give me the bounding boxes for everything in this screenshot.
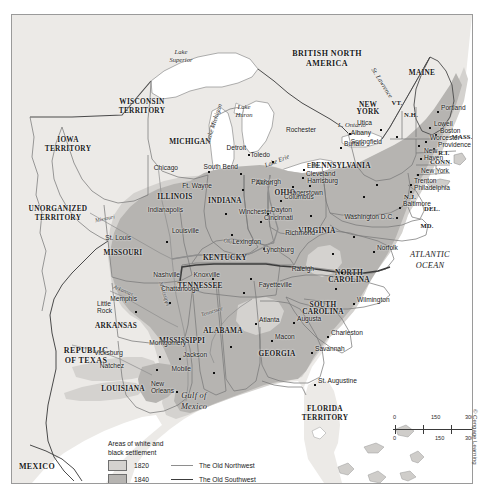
legend-label-old-southwest: The Old Southwest [199, 476, 256, 483]
state-label-louisiana: LOUISIANA [101, 385, 145, 392]
city-label-portland: Portland [441, 105, 466, 112]
city-marker-philadelphia [410, 191, 412, 193]
territory-label-wisconsin-territory: WISCONSINTERRITORY [119, 97, 166, 115]
copyright-credit: © Cengage Learning [472, 409, 478, 464]
city-marker-portland [437, 111, 439, 113]
scale-axis-line [393, 429, 473, 430]
city-label-chicago: Chicago [154, 165, 178, 172]
city-marker-lynchburg [332, 253, 334, 255]
region-label-british-north-america: BRITISH NORTHAMERICA [292, 49, 362, 70]
city-label-augusta: Augusta [297, 316, 321, 323]
region-label-atlantic-ocean: ATLANTICOCEAN [410, 249, 450, 271]
city-marker-worcester [425, 141, 427, 143]
city-marker-vicksburg [159, 356, 161, 358]
city-marker-winchester [310, 215, 312, 217]
city-marker-new-orleans [176, 391, 178, 393]
city-label-indianapolis: Indianapolis [148, 207, 183, 214]
city-label-rochester: Rochester [286, 127, 316, 134]
state-label-kentucky: KENTUCKY [203, 254, 247, 261]
water-label-lake-superior: LakeSuperior [169, 48, 192, 64]
state-label-maine: MAINE [409, 69, 435, 76]
state-label-new-york: NEWYORK [357, 101, 380, 116]
state-label-missouri: MISSOURI [104, 249, 143, 256]
old-southwest-line-sample [171, 479, 193, 480]
city-marker-savannah [311, 352, 313, 354]
scale-axis-group [393, 423, 473, 437]
legend-row-1840: 1840 The Old Southwest [108, 474, 256, 484]
state-label-n-h: N.H. [404, 112, 418, 119]
city-marker-washington-d-c [396, 217, 398, 219]
territory-label-florida-territory: FLORIDATERRITORY [302, 404, 349, 422]
water-label-lake-huron: LakeHuron [236, 103, 253, 119]
scale-tick-start [395, 425, 396, 434]
region-label-gulf-of-mexico: Gulf ofMexico [181, 390, 207, 412]
city-label-richmond: Richmond [285, 230, 315, 237]
city-marker-albany [396, 136, 398, 138]
city-label-utica: Utica [357, 120, 372, 127]
city-marker-macon [271, 340, 273, 342]
city-label-lexington: Lexington [232, 239, 261, 246]
city-marker-baltimore [399, 207, 401, 209]
state-label-north-carolina: NORTHCAROLINA [328, 269, 370, 284]
city-marker-ft-wayne [242, 189, 244, 191]
city-marker-hagerstown [363, 196, 365, 198]
city-marker-norfolk [373, 251, 375, 253]
city-marker-st-augustine [314, 384, 316, 386]
city-marker-utica [380, 129, 382, 131]
city-label-little-rock: LittleRock [97, 301, 112, 314]
city-marker-rochester [349, 133, 351, 135]
city-label-washington-d-c: Washington D.C. [344, 214, 394, 221]
city-marker-augusta [293, 322, 295, 324]
legend-label-1840: 1840 [134, 476, 149, 483]
scale-km-tick-150: 150 [431, 414, 440, 420]
city-marker-fayetteville [335, 288, 337, 290]
city-label-mobile: Mobile [172, 366, 191, 373]
city-label-macon: Macon [275, 334, 295, 341]
city-label-nashville: Nashville [153, 272, 180, 279]
territory-label-iowa-territory: IOWATERRITORY [45, 135, 92, 153]
city-marker-new-york [417, 174, 419, 176]
city-label-st-augustine: St. Augustine [318, 378, 357, 385]
city-marker-buffalo [340, 147, 342, 149]
city-marker-montgomery [230, 346, 232, 348]
city-marker-memphis [169, 302, 171, 304]
city-marker-cincinnati [260, 221, 262, 223]
legend-title: Areas of white and black settlement [108, 439, 256, 457]
state-label-alabama: ALABAMA [203, 327, 242, 334]
state-label-georgia: GEORGIA [258, 350, 295, 357]
state-label-indiana: INDIANA [208, 197, 242, 204]
state-label-pennsylvania: PENNSYLVANIA [311, 162, 370, 169]
legend: Areas of white and black settlement 1820… [108, 439, 256, 484]
map-frame: BRITISH NORTHAMERICAATLANTICOCEANGulf of… [11, 14, 473, 484]
city-marker-lowell [429, 127, 431, 129]
city-marker-cleveland [302, 177, 304, 179]
city-label-new-york: New York [421, 168, 449, 175]
state-label-vt: VT. [392, 100, 403, 107]
legend-row-1820: 1820 The Old Northwest [108, 460, 256, 471]
city-label-ft-wayne: Ft. Wayne [182, 183, 212, 190]
city-label-baltimore: Baltimore [403, 201, 431, 208]
city-label-providence: Providence [438, 142, 471, 149]
city-label-new-orleans: NewOrleans [151, 381, 174, 394]
city-marker-trenton [410, 184, 412, 186]
city-label-new-haven: NewHaven [424, 148, 443, 161]
city-marker-charleston [327, 336, 329, 338]
scale-bar: 0 150 300 Km. 0 150 300 Mi. [393, 414, 473, 446]
state-label-arkansas: ARKANSAS [95, 322, 137, 329]
city-marker-st-louis [166, 241, 168, 243]
figure-caption-cropped [24, 488, 474, 498]
city-label-erie: Erie [307, 163, 319, 170]
city-marker-columbus [280, 200, 282, 202]
scale-km-tick-0: 0 [393, 414, 396, 420]
city-marker-springfield [418, 145, 420, 147]
city-label-wilmington: Wilmington [357, 297, 390, 304]
city-marker-jackson [179, 358, 181, 360]
state-label-south-carolina: SOUTHCAROLINA [302, 301, 344, 316]
city-label-harrisburg: Harrisburg [307, 178, 338, 185]
city-marker-mobile [213, 372, 215, 374]
city-label-albany: Albany [351, 130, 371, 137]
scale-km-row: 0 150 300 Km. [393, 414, 473, 423]
old-northwest-line-sample [171, 465, 193, 466]
city-label-cleveland: Cleveland [306, 171, 335, 178]
city-marker-chicago [208, 171, 210, 173]
